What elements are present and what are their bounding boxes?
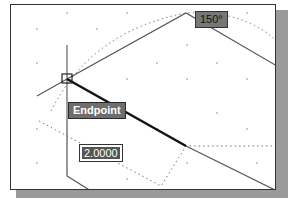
line-extension (186, 146, 276, 190)
drawing-canvas[interactable] (11, 5, 276, 190)
drawing-viewport[interactable]: Endpoint 150° 2.0000 (10, 4, 276, 190)
angle-arc (51, 13, 276, 111)
grid-dots (36, 12, 276, 180)
angle-tooltip: 150° (195, 11, 228, 28)
snap-tooltip: Endpoint (68, 102, 126, 119)
length-input[interactable]: 2.0000 (79, 144, 123, 162)
length-value: 2.0000 (82, 147, 120, 159)
